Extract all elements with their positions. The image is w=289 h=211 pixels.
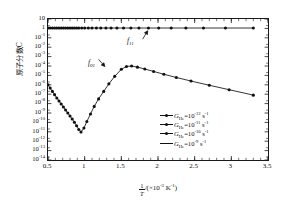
annotation-f01: f01 (88, 58, 95, 67)
data-point (170, 26, 173, 29)
data-point (157, 26, 160, 29)
y-tick-label: 10-9 (35, 109, 46, 116)
data-point (80, 26, 83, 29)
data-point (89, 112, 92, 115)
legend-line (160, 143, 173, 144)
data-point (102, 90, 105, 93)
series-f01 (48, 64, 255, 133)
data-point (64, 108, 67, 111)
data-point (49, 87, 52, 90)
x-tick-label: 1 (82, 163, 86, 170)
data-point (68, 114, 71, 117)
data-point (82, 126, 85, 129)
x-axis-fraction-numerator: 1 (139, 182, 145, 189)
y-tick-label: 10 (38, 15, 45, 22)
data-point (95, 26, 98, 29)
legend-label: GHe=10-11 s-1 (174, 120, 208, 129)
data-point (125, 65, 128, 68)
plot-svg (48, 19, 268, 160)
x-axis-unit-b: K (164, 184, 171, 192)
y-axis-tick-labels: 10110-110-210-310-410-510-610-710-810-91… (0, 0, 47, 211)
data-point (152, 70, 155, 73)
data-point (202, 26, 205, 29)
legend-item: GHe=10-12 s-1 (160, 111, 209, 120)
data-point (48, 83, 50, 86)
legend-item: GHe=10-10 s-1 (160, 129, 209, 138)
data-point (75, 124, 78, 127)
data-point (99, 26, 102, 29)
data-point (252, 26, 255, 29)
legend: GHe=10-12 s-1GHe=10-11 s-1GHe=10-10 s-1G… (160, 111, 209, 148)
data-point (110, 26, 113, 29)
data-point (55, 96, 58, 99)
legend-item: GHe=10-9 s-1 (160, 139, 209, 148)
data-point (53, 93, 56, 96)
legend-marker-icon (165, 123, 168, 126)
legend-swatch (160, 121, 173, 128)
data-point (71, 117, 74, 120)
y-tick-label: 10-4 (35, 62, 46, 69)
data-point (62, 105, 65, 108)
x-axis-fraction-denominator: T (139, 189, 145, 197)
y-tick-label: 10-11 (32, 128, 45, 135)
data-point (66, 111, 69, 114)
data-point (115, 26, 118, 29)
y-tick-label: 10-5 (35, 71, 46, 78)
x-axis-fraction: 1 T (139, 182, 145, 197)
x-tick-label: 3 (229, 163, 233, 170)
data-point (184, 26, 187, 29)
data-point (147, 26, 150, 29)
data-point (208, 84, 211, 87)
x-axis-unit-a: /(×10 (145, 184, 160, 192)
figure: 原子分数C 10110-110-210-310-410-510-610-710-… (0, 0, 289, 211)
data-point (104, 26, 107, 29)
y-tick-label: 10-2 (35, 43, 46, 50)
legend-swatch (160, 140, 173, 147)
annotation-f01-text: f01 (88, 58, 95, 67)
x-tick-label: 2.5 (189, 163, 198, 170)
data-point (136, 66, 139, 69)
x-axis-title: 1 T /(×10-3 K-1) (47, 181, 269, 196)
data-point (120, 68, 123, 71)
y-tick-label: 10-8 (35, 99, 46, 106)
data-point (97, 97, 100, 100)
data-point (224, 26, 227, 29)
data-point (129, 26, 132, 29)
data-point (90, 26, 93, 29)
legend-label: GHe=10-10 s-1 (174, 129, 209, 138)
data-point (79, 130, 82, 133)
legend-label: GHe=10-12 s-1 (174, 111, 209, 120)
data-point (57, 99, 60, 102)
legend-marker-icon (165, 114, 168, 117)
data-point (189, 79, 192, 82)
data-point (87, 26, 90, 29)
data-point (85, 120, 88, 123)
x-tick-label: 3.5 (263, 163, 272, 170)
annotation-arrow-f01 (99, 59, 105, 66)
x-tick-label: 0.5 (43, 163, 52, 170)
data-point (83, 26, 86, 29)
legend-item: GHe=10-11 s-1 (160, 120, 209, 129)
legend-swatch (160, 130, 173, 137)
y-tick-label: 10-7 (35, 90, 46, 97)
legend-marker-icon (165, 132, 168, 135)
data-point (73, 121, 76, 124)
annotation-arrow-f11 (143, 31, 148, 39)
x-axis-unit-c: ) (175, 184, 177, 192)
series-line-f01 (48, 66, 253, 132)
data-point (107, 82, 110, 85)
data-point (162, 73, 165, 76)
data-point (93, 105, 96, 108)
data-point (113, 75, 116, 78)
y-tick-label: 10-6 (35, 81, 46, 88)
annotation-f11-text: f11 (127, 36, 134, 45)
data-point (77, 26, 80, 29)
x-tick-label: 2 (155, 163, 159, 170)
legend-swatch (160, 112, 173, 119)
data-point (252, 94, 255, 97)
data-point (137, 26, 140, 29)
data-point (130, 64, 133, 67)
y-tick-label: 10-1 (35, 34, 46, 41)
data-point (228, 88, 231, 91)
plot-area (47, 18, 269, 161)
